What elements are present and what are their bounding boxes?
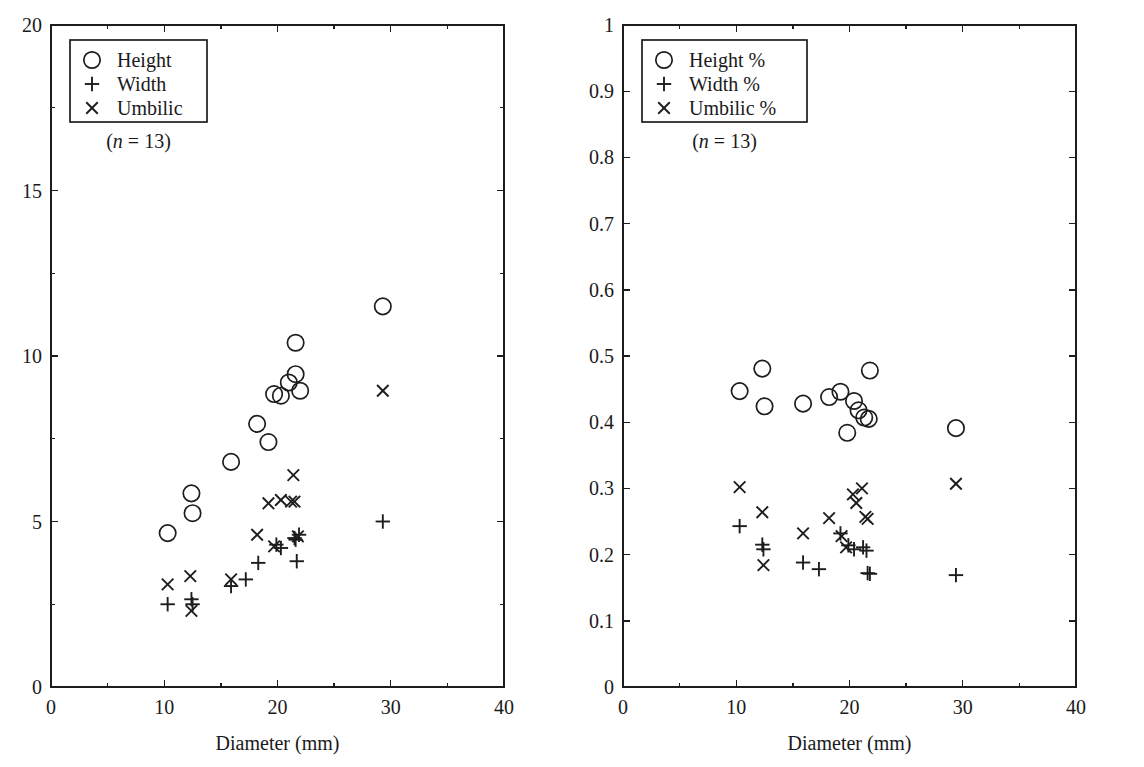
x-tick-label-0: 0 <box>46 696 56 718</box>
y-tick-label-0.5: 0.5 <box>589 345 614 367</box>
data-point <box>846 393 862 409</box>
data-point <box>183 485 199 501</box>
x-tick-label-30: 30 <box>381 696 401 718</box>
x-tick-label-0: 0 <box>618 696 628 718</box>
series-umbilic <box>734 478 962 571</box>
series-width <box>160 514 390 611</box>
series-height <box>731 360 964 441</box>
x-tick-label-40: 40 <box>494 696 514 718</box>
chart-panel-right: 01020304000.10.20.30.40.50.60.70.80.91Di… <box>572 0 1144 767</box>
y-tick-label-15: 15 <box>22 180 42 202</box>
x-tick-label-10: 10 <box>726 696 746 718</box>
data-point <box>850 402 866 418</box>
legend-label-1: Width <box>117 73 166 95</box>
data-point <box>948 420 964 436</box>
series-width <box>732 519 963 582</box>
data-point <box>260 434 276 450</box>
data-point <box>223 454 239 470</box>
legend-label-2: Umbilic % <box>689 97 776 119</box>
legend-label-2: Umbilic <box>117 97 183 119</box>
x-tick-label-10: 10 <box>154 696 174 718</box>
data-point <box>862 362 878 378</box>
y-tick-label-10: 10 <box>22 345 42 367</box>
legend-label-0: Height % <box>689 49 765 72</box>
data-point <box>184 505 200 521</box>
y-tick-label-0.7: 0.7 <box>589 213 614 235</box>
figure-root: 01020304005101520Diameter (mm)HeightWidt… <box>0 0 1144 767</box>
plot-frame <box>623 25 1076 687</box>
plot-area-left: 01020304005101520Diameter (mm)HeightWidt… <box>0 0 572 767</box>
x-tick-label-20: 20 <box>268 696 288 718</box>
y-tick-label-0.9: 0.9 <box>589 80 614 102</box>
legend: Height %Width %Umbilic % <box>642 40 807 122</box>
sample-size-annotation: (n = 13) <box>106 130 171 153</box>
data-point <box>756 398 772 414</box>
x-tick-label-20: 20 <box>840 696 860 718</box>
y-tick-label-0.8: 0.8 <box>589 146 614 168</box>
data-point <box>287 335 303 351</box>
x-tick-label-30: 30 <box>953 696 973 718</box>
y-tick-label-0.1: 0.1 <box>589 610 614 632</box>
y-tick-label-0.2: 0.2 <box>589 544 614 566</box>
y-tick-label-0.4: 0.4 <box>589 411 614 433</box>
y-tick-label-1: 1 <box>604 14 614 36</box>
plot-frame <box>51 25 504 687</box>
data-point <box>731 383 747 399</box>
x-axis-title: Diameter (mm) <box>788 732 912 755</box>
y-tick-label-20: 20 <box>22 14 42 36</box>
data-point <box>795 395 811 411</box>
y-tick-label-0: 0 <box>604 676 614 698</box>
legend: HeightWidthUmbilic <box>70 40 207 122</box>
y-tick-label-5: 5 <box>32 511 42 533</box>
legend-label-0: Height <box>117 49 172 72</box>
plot-area-right: 01020304000.10.20.30.40.50.60.70.80.91Di… <box>572 0 1144 767</box>
legend-label-1: Width % <box>689 73 760 95</box>
y-tick-label-0.6: 0.6 <box>589 279 614 301</box>
chart-panel-left: 01020304005101520Diameter (mm)HeightWidt… <box>0 0 572 767</box>
data-point <box>249 416 265 432</box>
x-tick-label-40: 40 <box>1066 696 1086 718</box>
sample-size-annotation: (n = 13) <box>692 130 757 153</box>
data-point <box>375 298 391 314</box>
data-point <box>159 525 175 541</box>
y-tick-label-0: 0 <box>32 676 42 698</box>
x-axis-title: Diameter (mm) <box>216 732 340 755</box>
data-point <box>839 425 855 441</box>
data-point <box>754 360 770 376</box>
data-point <box>292 383 308 399</box>
y-tick-label-0.3: 0.3 <box>589 477 614 499</box>
